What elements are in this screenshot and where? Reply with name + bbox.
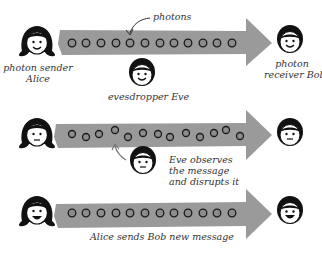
eavesdropper-label: evesdropper Eve bbox=[108, 91, 189, 102]
sender-label-line-2: Alice bbox=[2, 73, 74, 84]
bob-avatar bbox=[277, 118, 303, 146]
sender-label-line-1: photon sender bbox=[2, 62, 74, 73]
photons-label: photons bbox=[153, 11, 191, 22]
bob-avatar bbox=[277, 196, 303, 224]
eve-avatar bbox=[130, 146, 156, 174]
sender-label: photon sender Alice bbox=[2, 62, 74, 84]
bob-avatar bbox=[277, 25, 303, 53]
eve-observes-line-1: Eve observes bbox=[169, 154, 239, 165]
alice-avatar bbox=[19, 196, 55, 226]
receiver-label: photon receiver Bob bbox=[264, 58, 320, 80]
new-message-label: Alice sends Bob new message bbox=[90, 231, 234, 242]
row-2-eavesdropping bbox=[19, 110, 303, 174]
diagram-canvas bbox=[0, 0, 322, 258]
alice-avatar bbox=[19, 118, 55, 148]
eve-observes-line-2: the message bbox=[169, 165, 239, 176]
eve-avatar bbox=[129, 58, 155, 86]
receiver-label-line-1: photon bbox=[264, 58, 320, 69]
receiver-label-line-2: receiver Bob bbox=[264, 69, 320, 80]
eve-intercept-arrow bbox=[115, 146, 126, 160]
eve-observes-label: Eve observes the message and disrupts it bbox=[169, 154, 239, 187]
eve-observes-line-3: and disrupts it bbox=[169, 176, 239, 187]
alice-avatar bbox=[19, 26, 55, 56]
